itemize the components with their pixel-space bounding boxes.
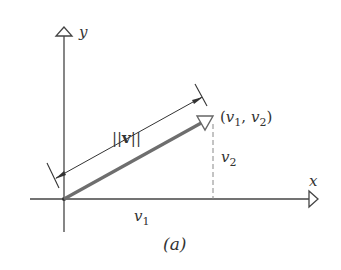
endpoint-label: (v1, v2) (220, 108, 272, 129)
y-component-sub: 2 (229, 156, 236, 169)
norm-tick-end (195, 84, 207, 106)
endpoint-sub2: 2 (259, 116, 266, 129)
norm-bars-right: || (131, 129, 141, 147)
endpoint-sep: , (241, 108, 251, 126)
x-component-sub: 1 (142, 215, 149, 228)
x-axis-arrowhead-icon (309, 191, 318, 207)
x-component-label: v1 (134, 207, 149, 228)
norm-label: ||v|| (112, 129, 141, 147)
x-axis-label: x (309, 172, 318, 190)
y-axis-arrowhead-icon (56, 27, 72, 36)
norm-bars-left: || (112, 129, 122, 147)
endpoint-sub1: 1 (234, 116, 241, 129)
norm-tick-start (47, 163, 59, 188)
y-axis-label: y (78, 23, 88, 41)
norm-arrowhead-end-icon (192, 97, 203, 104)
y-component-label: v2 (221, 148, 236, 169)
endpoint-close-paren: ) (266, 108, 272, 126)
figure-caption: (a) (163, 234, 186, 254)
vector-diagram: y x ||v|| (v1, v2) v2 v1 (a) (0, 0, 341, 270)
